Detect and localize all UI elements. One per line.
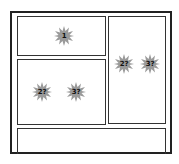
marker-star: 1 — [54, 26, 74, 46]
marker-star: 2? — [32, 82, 52, 102]
marker-star: 2? — [114, 54, 134, 74]
marker-star: 3? — [66, 82, 86, 102]
panel-bottom — [17, 128, 166, 154]
marker-label: 2? — [38, 88, 46, 96]
marker-label: 1 — [62, 32, 67, 40]
marker-star: 3? — [140, 54, 160, 74]
panel-top-left: 1 — [17, 16, 106, 56]
marker-label: 2? — [120, 60, 128, 68]
panel-right-column: 2? 3? — [108, 16, 166, 124]
marker-label: 3? — [146, 60, 154, 68]
marker-label: 3? — [72, 88, 80, 96]
panel-middle-left: 2? 3? — [17, 59, 106, 125]
